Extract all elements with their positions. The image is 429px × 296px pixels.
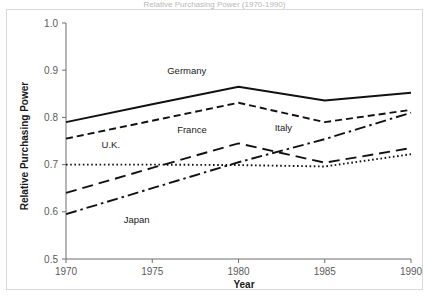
y-tick-labels: 0.50.60.70.80.91.0 bbox=[44, 18, 58, 265]
y-tick-label: 0.8 bbox=[44, 112, 58, 123]
series-label-uk: U.K. bbox=[102, 139, 120, 150]
x-tick-label: 1990 bbox=[400, 266, 423, 277]
y-tick-label: 0.9 bbox=[44, 65, 58, 76]
line-chart-canvas: 0.50.60.70.80.91.0 19701975198019851990 … bbox=[0, 0, 429, 296]
series-label-germany: Germany bbox=[167, 65, 206, 76]
x-tick-label: 1970 bbox=[55, 266, 78, 277]
series-line-japan bbox=[66, 113, 411, 214]
series-label-france: France bbox=[177, 124, 207, 135]
y-tick-label: 0.5 bbox=[44, 254, 58, 265]
data-series-group bbox=[66, 87, 411, 214]
series-label-japan: Japan bbox=[124, 214, 150, 225]
y-tick-label: 1.0 bbox=[44, 18, 58, 29]
series-inline-labels: GermanyFranceU.K.ItalyJapan bbox=[102, 65, 293, 226]
series-line-uk bbox=[66, 154, 411, 166]
chart-figure: Relative Purchasing Power (1970-1990) 0.… bbox=[0, 0, 429, 296]
series-label-italy: Italy bbox=[275, 122, 293, 133]
x-tick-labels: 19701975198019851990 bbox=[55, 266, 423, 277]
y-tick-label: 0.7 bbox=[44, 159, 58, 170]
series-line-italy bbox=[66, 143, 411, 193]
y-tick-label: 0.6 bbox=[44, 206, 58, 217]
y-axis-title: Relative Purchasing Power bbox=[19, 82, 30, 210]
x-tick-label: 1980 bbox=[227, 266, 250, 277]
y-axis-ticks bbox=[62, 23, 66, 259]
series-line-france bbox=[66, 103, 411, 139]
x-axis-ticks bbox=[66, 259, 411, 263]
x-axis-title: Year bbox=[233, 279, 254, 290]
x-tick-label: 1975 bbox=[141, 266, 164, 277]
x-tick-label: 1985 bbox=[314, 266, 337, 277]
